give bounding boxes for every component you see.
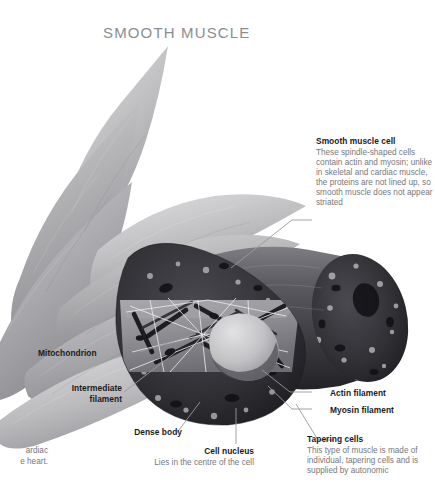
label-text: Actin filament (330, 388, 430, 399)
callout-heading: Cell nucleus (150, 446, 254, 457)
callout-heading: Tapering cells (307, 434, 435, 445)
callout-cell-nucleus: Cell nucleus Lies in the centre of the c… (150, 446, 254, 468)
callout-body: ardiac e heart. (0, 445, 48, 467)
callout-tapering-cells: Tapering cells This type of muscle is ma… (307, 434, 435, 476)
callout-heading: Smooth muscle cell (316, 136, 435, 147)
label-actin-filament: Actin filament (330, 388, 430, 399)
diagram-canvas: SMOOTH MUSCLE Smooth muscle cell These s… (0, 0, 435, 482)
label-dense-body: Dense body (108, 427, 182, 438)
label-text: Dense body (108, 427, 182, 438)
label-intermediate-filament: Intermediate filament (52, 383, 122, 405)
page-title: SMOOTH MUSCLE (103, 24, 250, 41)
callout-body: These spindle-shaped cells contain actin… (316, 148, 435, 209)
label-myosin-filament: Myosin filament (330, 405, 430, 416)
label-text: Mitochondrion (38, 348, 122, 359)
label-text: Myosin filament (330, 405, 430, 416)
callout-body: This type of muscle is made of individua… (307, 446, 435, 476)
callout-smooth-muscle-cell: Smooth muscle cell These spindle-shaped … (316, 136, 435, 209)
label-text: Intermediate filament (52, 383, 122, 405)
callout-body: Lies in the centre of the cell (150, 458, 254, 468)
callout-cardiac-fragment: ardiac e heart. (0, 445, 48, 467)
label-mitochondrion: Mitochondrion (38, 348, 122, 359)
